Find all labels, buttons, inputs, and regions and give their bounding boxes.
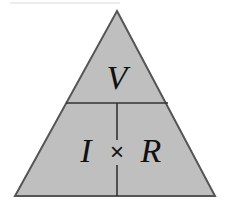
current-symbol: I: [79, 132, 93, 169]
ohms-law-triangle-figure: V I × R: [0, 0, 228, 205]
multiplication-sign-icon: ×: [110, 138, 124, 165]
resistance-symbol: R: [140, 132, 162, 169]
figure-canvas: V I × R: [0, 0, 228, 205]
